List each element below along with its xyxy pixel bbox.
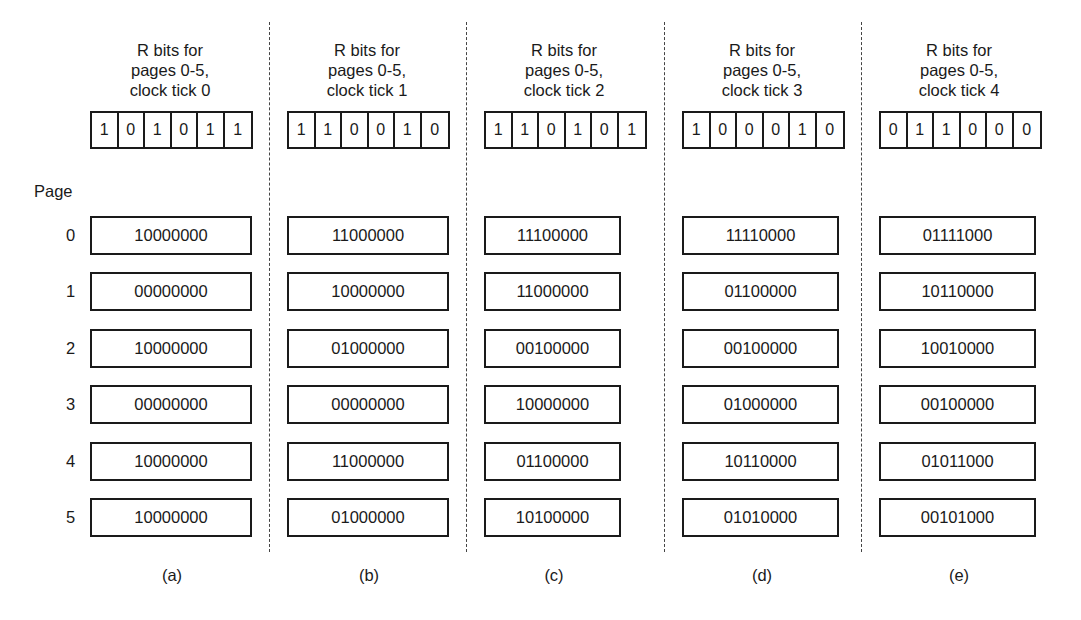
column-header: R bits for pages 0-5, clock tick 3 bbox=[664, 40, 860, 100]
page-counter: 11000000 bbox=[484, 272, 621, 311]
r-bit: 0 bbox=[342, 113, 369, 147]
column-b: R bits for pages 0-5, clock tick 1 1 1 0… bbox=[269, 0, 465, 620]
r-bits-row: 1 0 0 0 1 0 bbox=[682, 111, 845, 149]
page-counter: 01111000 bbox=[879, 216, 1036, 255]
r-bits-row: 1 1 0 0 1 0 bbox=[287, 111, 450, 149]
r-bit: 0 bbox=[422, 113, 449, 147]
r-bit: 0 bbox=[711, 113, 738, 147]
page-counter: 01100000 bbox=[682, 272, 839, 311]
r-bit: 0 bbox=[881, 113, 908, 147]
r-bit: 1 bbox=[92, 113, 119, 147]
column-a: R bits for pages 0-5, clock tick 0 1 0 1… bbox=[72, 0, 268, 620]
page-counter: 00000000 bbox=[287, 385, 449, 424]
r-bit: 1 bbox=[198, 113, 225, 147]
subfigure-label: (d) bbox=[664, 566, 860, 585]
column-d: R bits for pages 0-5, clock tick 3 1 0 0… bbox=[664, 0, 860, 620]
subfigure-label: (e) bbox=[861, 566, 1057, 585]
r-bit: 1 bbox=[486, 113, 513, 147]
page-counter: 00101000 bbox=[879, 498, 1036, 537]
page-counter: 10110000 bbox=[682, 442, 839, 481]
column-header: R bits for pages 0-5, clock tick 0 bbox=[72, 40, 268, 100]
r-bit: 1 bbox=[145, 113, 172, 147]
page-counter: 10010000 bbox=[879, 329, 1036, 368]
page-counter: 11000000 bbox=[287, 216, 449, 255]
page-counter: 10000000 bbox=[90, 442, 252, 481]
r-bit: 0 bbox=[737, 113, 764, 147]
page-counter: 00100000 bbox=[682, 329, 839, 368]
page-counter: 00000000 bbox=[90, 272, 252, 311]
subfigure-label: (a) bbox=[74, 566, 270, 585]
r-bit: 1 bbox=[395, 113, 422, 147]
page-counter: 00100000 bbox=[484, 329, 621, 368]
page-counter: 10000000 bbox=[287, 272, 449, 311]
r-bit: 1 bbox=[619, 113, 646, 147]
r-bit: 0 bbox=[369, 113, 396, 147]
page-counter: 11100000 bbox=[484, 216, 621, 255]
column-e: R bits for pages 0-5, clock tick 4 0 1 1… bbox=[861, 0, 1057, 620]
page-counter: 10000000 bbox=[90, 498, 252, 537]
r-bit: 0 bbox=[1014, 113, 1041, 147]
r-bit: 1 bbox=[566, 113, 593, 147]
page-counter: 10000000 bbox=[90, 329, 252, 368]
r-bit: 1 bbox=[225, 113, 252, 147]
page-counter: 01000000 bbox=[287, 329, 449, 368]
subfigure-label: (b) bbox=[271, 566, 467, 585]
column-header: R bits for pages 0-5, clock tick 1 bbox=[269, 40, 465, 100]
r-bit: 0 bbox=[961, 113, 988, 147]
r-bit: 0 bbox=[987, 113, 1014, 147]
r-bits-row: 0 1 1 0 0 0 bbox=[879, 111, 1042, 149]
r-bit: 0 bbox=[592, 113, 619, 147]
r-bit: 0 bbox=[539, 113, 566, 147]
r-bit: 1 bbox=[790, 113, 817, 147]
page-counter: 10100000 bbox=[484, 498, 621, 537]
page-counter: 00100000 bbox=[879, 385, 1036, 424]
r-bit: 1 bbox=[513, 113, 540, 147]
page-counter: 00000000 bbox=[90, 385, 252, 424]
page-counter: 10000000 bbox=[90, 216, 252, 255]
r-bit: 0 bbox=[817, 113, 844, 147]
page-counter: 10000000 bbox=[484, 385, 621, 424]
column-header: R bits for pages 0-5, clock tick 2 bbox=[466, 40, 662, 100]
subfigure-label: (c) bbox=[456, 566, 652, 585]
page-counter: 01010000 bbox=[682, 498, 839, 537]
page-heading: Page bbox=[34, 182, 73, 201]
r-bit: 0 bbox=[119, 113, 146, 147]
column-c: R bits for pages 0-5, clock tick 2 1 1 0… bbox=[466, 0, 662, 620]
page-counter: 01011000 bbox=[879, 442, 1036, 481]
r-bit: 0 bbox=[172, 113, 199, 147]
column-header: R bits for pages 0-5, clock tick 4 bbox=[861, 40, 1057, 100]
page-counter: 01000000 bbox=[682, 385, 839, 424]
r-bits-row: 1 0 1 0 1 1 bbox=[90, 111, 253, 149]
page-counter: 01000000 bbox=[287, 498, 449, 537]
page-counter: 01100000 bbox=[484, 442, 621, 481]
page-counter: 10110000 bbox=[879, 272, 1036, 311]
r-bit: 0 bbox=[764, 113, 791, 147]
r-bit: 1 bbox=[289, 113, 316, 147]
page-counter: 11110000 bbox=[682, 216, 839, 255]
r-bit: 1 bbox=[934, 113, 961, 147]
r-bits-row: 1 1 0 1 0 1 bbox=[484, 111, 647, 149]
page-counter: 11000000 bbox=[287, 442, 449, 481]
r-bit: 1 bbox=[908, 113, 935, 147]
r-bit: 1 bbox=[316, 113, 343, 147]
r-bit: 1 bbox=[684, 113, 711, 147]
